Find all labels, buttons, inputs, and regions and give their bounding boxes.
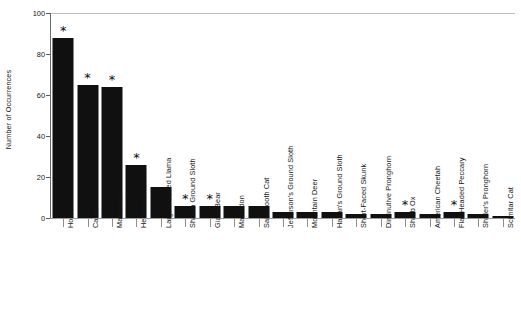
x-axis-tick-mark	[63, 219, 64, 227]
significance-asterisk: *	[60, 27, 67, 35]
x-axis-tick-label-text: Harlan's Ground Sloth	[335, 154, 344, 228]
y-axis-title-text: Number of Occurrences	[5, 69, 14, 148]
x-axis-tick-mark	[503, 219, 504, 227]
x-axis-tick-label-text: Jefferson's Ground Sloth	[286, 146, 295, 228]
bar-group: *	[51, 13, 75, 218]
significance-asterisk: *	[109, 76, 116, 84]
x-axis-tick-label-text: Mammoth	[115, 195, 124, 228]
x-axis-tick-mark	[234, 219, 235, 227]
x-axis-tick-label-text: Short-Faced Skunk	[359, 164, 368, 228]
x-axis-tick-label-text: Shuler's Pronghorn	[481, 164, 490, 228]
x-axis-tick-label-text: Flat-Headed Peccary	[457, 158, 466, 228]
x-axis-tick-mark	[259, 219, 260, 227]
x-axis-tick-label-text: Mountain Deer	[310, 179, 319, 228]
x-axis-tick-mark	[185, 219, 186, 227]
y-axis-tick-label: 80	[19, 50, 45, 59]
x-axis-tick-label-text: Horse	[66, 208, 75, 228]
x-axis-tick-mark	[332, 219, 333, 227]
x-axis-tick-mark	[381, 219, 382, 227]
bar	[53, 38, 74, 218]
x-axis-tick-label-text: Camel	[91, 206, 100, 228]
x-axis-tick-labels: HorseCamelMammothHelmeted MuskoxLarge-He…	[51, 228, 515, 327]
x-axis-tick-label-text: Giant Bear	[213, 192, 222, 228]
x-axis-tick-mark	[88, 219, 89, 227]
x-axis-tick-label-text: Diminutive Pronghorn	[384, 156, 393, 228]
bar-chart-figure: Number of Occurrences 020406080100 *****…	[0, 0, 521, 327]
y-axis-tick-label: 20	[19, 173, 45, 182]
y-axis-title: Number of Occurrences	[0, 0, 18, 218]
x-axis-tick-mark	[356, 219, 357, 227]
x-axis-tick-label-text: Sabertooth Cat	[262, 178, 271, 228]
bar-group: *	[393, 13, 417, 218]
significance-asterisk: *	[133, 154, 140, 162]
significance-asterisk: *	[206, 195, 213, 203]
x-axis-tick-mark	[283, 219, 284, 227]
x-axis-tick-mark	[112, 219, 113, 227]
y-axis-tick-labels: 020406080100	[17, 0, 45, 327]
x-axis-tick-label-text: American Cheetah	[433, 166, 442, 228]
x-axis-tick-mark	[430, 219, 431, 227]
y-axis-tick-label: 100	[19, 9, 45, 18]
significance-asterisk: *	[84, 74, 91, 82]
bar-group: *	[75, 13, 99, 218]
x-axis-tick-mark	[478, 219, 479, 227]
bar	[77, 85, 98, 218]
bar-group: *	[100, 13, 124, 218]
x-axis-tick-mark	[161, 219, 162, 227]
plot-area: ********	[51, 13, 515, 218]
y-axis-tick-label: 0	[19, 214, 45, 223]
x-axis-tick-label-text: Helmeted Muskox	[139, 168, 148, 228]
x-axis-tick-mark	[454, 219, 455, 227]
x-axis-tick-mark	[210, 219, 211, 227]
bar-group	[222, 13, 246, 218]
y-axis-tick-label: 40	[19, 132, 45, 141]
x-axis-tick-label-text: Shasta Ground Sloth	[188, 158, 197, 228]
x-axis-tick-mark	[136, 219, 137, 227]
bar-group: *	[198, 13, 222, 218]
x-axis-tick-label-text: Large-Headed Llama	[164, 158, 173, 228]
y-axis-tick-label: 60	[19, 91, 45, 100]
x-axis-tick-mark	[405, 219, 406, 227]
x-axis-tick-label-text: Mastodon	[237, 195, 246, 228]
x-axis-tick-mark	[307, 219, 308, 227]
x-axis-tick-label-text: Shrub Ox	[408, 196, 417, 228]
x-axis-tick-label-text: Scimitar Cat	[506, 187, 515, 228]
